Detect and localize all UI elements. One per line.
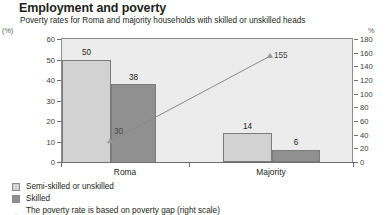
right-axis-tick-label-120: 120 — [360, 76, 373, 85]
left-axis-unit-label: (%) — [2, 26, 13, 35]
right-axis-tick-label-160: 160 — [360, 49, 373, 58]
legend-swatch-dark-gray-square-icon — [12, 195, 20, 203]
legend-item-poverty-gap[interactable]: The poverty rate is based on poverty gap… — [12, 206, 387, 215]
right-axis-tick-label-60: 60 — [360, 117, 368, 126]
right-axis-tick — [354, 148, 358, 149]
poverty-gap-line-series — [61, 39, 353, 162]
legend-label-poverty-gap: The poverty rate is based on poverty gap… — [26, 206, 220, 215]
right-axis-tick — [354, 53, 358, 54]
left-axis-tick-label-10: 10 — [47, 138, 55, 147]
x-axis-baseline — [61, 162, 353, 163]
right-axis-tick — [354, 94, 358, 95]
left-axis-tick-label-20: 20 — [47, 117, 55, 126]
poverty-gap-line — [110, 56, 270, 141]
right-axis-tick — [354, 66, 358, 67]
right-axis-tick — [354, 162, 358, 163]
x-axis-end-tick — [353, 162, 354, 167]
legend-label-semi-skilled: Semi-skilled or unskilled — [26, 182, 114, 192]
chart-subtitle: Poverty rates for Roma and majority hous… — [20, 16, 305, 25]
right-axis-tick — [354, 107, 358, 108]
right-axis-tick — [354, 39, 358, 40]
legend-item-semi-skilled[interactable]: Semi-skilled or unskilled — [12, 182, 387, 193]
right-axis-unit-label: % — [368, 26, 374, 35]
category-label-majority: Majority — [189, 167, 353, 177]
right-axis-tick-label-20: 20 — [360, 144, 368, 153]
right-axis-tick-label-40: 40 — [360, 131, 368, 140]
category-label-roma: Roma — [61, 167, 189, 177]
left-axis-tick-label-60: 60 — [47, 35, 55, 44]
legend-label-skilled: Skilled — [26, 194, 50, 204]
legend-line-triangle-marker-icon — [12, 207, 20, 215]
right-axis-tick-label-0: 0 — [360, 158, 364, 167]
left-axis-tick-label-30: 30 — [47, 97, 55, 106]
right-axis-tick-label-100: 100 — [360, 90, 373, 99]
line-value-roma: 30 — [114, 127, 123, 136]
right-axis-tick-label-140: 140 — [360, 62, 373, 71]
right-axis-tick — [354, 135, 358, 136]
right-axis-tick — [354, 121, 358, 122]
chart-container: Employment and poverty Poverty rates for… — [0, 0, 387, 215]
right-axis-tick-label-80: 80 — [360, 103, 368, 112]
chart-legend: Semi-skilled or unskilled Skilled The po… — [12, 182, 387, 215]
right-axis-tick — [354, 80, 358, 81]
chart-title: Employment and poverty — [19, 1, 166, 15]
left-axis-tick-label-40: 40 — [47, 76, 55, 85]
legend-item-skilled[interactable]: Skilled — [12, 194, 387, 205]
legend-swatch-light-gray-square-icon — [12, 183, 20, 191]
right-axis-tick-label-180: 180 — [360, 35, 373, 44]
left-axis-tick-label-0: 0 — [51, 158, 55, 167]
left-axis-tick-label-50: 50 — [47, 56, 55, 65]
line-value-majority: 155 — [274, 51, 288, 60]
triangle-marker-icon — [267, 53, 273, 58]
